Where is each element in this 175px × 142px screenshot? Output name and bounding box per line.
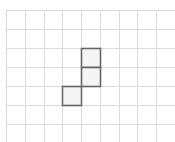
- grid-diagram: [0, 0, 175, 142]
- highlighted-cell: [82, 68, 101, 87]
- highlighted-cell: [63, 87, 82, 106]
- grid-canvas: [0, 0, 175, 142]
- highlighted-shape: [63, 49, 101, 106]
- highlighted-cell: [82, 49, 101, 68]
